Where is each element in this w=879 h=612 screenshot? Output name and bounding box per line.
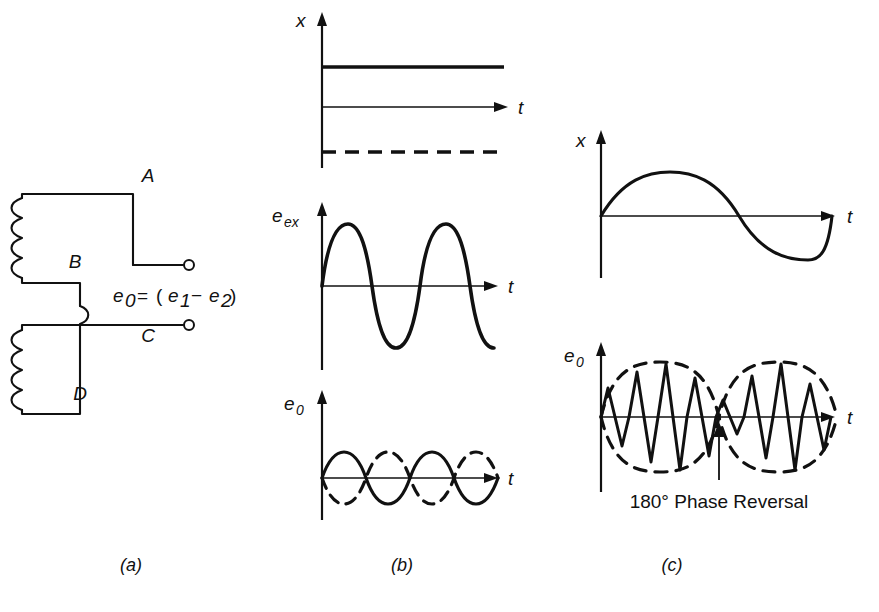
lower-coil-top-lead	[22, 325, 86, 330]
c2-x-axis-arrow	[821, 412, 835, 422]
upper-coil-icon	[12, 198, 23, 278]
chart-b-excitation	[317, 202, 498, 370]
b1-y-axis-arrow	[317, 12, 327, 26]
panel-label-b: (b)	[391, 555, 413, 575]
chart-b-output	[317, 390, 498, 520]
b1-axis-label-x: x	[295, 10, 307, 31]
figure-canvas: A B C D e 0 = ( e 1 − e 2 )	[0, 0, 879, 612]
panel-a-circuit	[12, 194, 195, 414]
wire-hop-icon	[80, 306, 88, 352]
lower-coil-bottom-lead	[22, 352, 80, 414]
b1-x-axis-arrow	[494, 102, 508, 112]
b2-y-axis-arrow	[317, 202, 327, 216]
b3-axis-label-e: e	[284, 393, 295, 414]
terminal-top	[184, 260, 194, 270]
b3-axis-label-t: t	[508, 468, 514, 489]
b2-axis-label-t: t	[508, 276, 514, 297]
b3-axis-label-e0: e 0	[284, 393, 304, 418]
formula-e-out: e	[113, 285, 124, 306]
formula-paren-close: )	[230, 285, 236, 306]
b2-axis-label-e-sub: ex	[284, 214, 300, 230]
c2-y-axis-arrow	[596, 342, 606, 356]
chart-c-displacement	[596, 130, 835, 278]
formula-minus: −	[191, 285, 202, 306]
b3-axis-label-e-sub: 0	[296, 402, 304, 418]
upper-coil-bottom-lead	[22, 278, 80, 306]
formula-e-out-sub: 0	[125, 290, 136, 311]
b1-axis-label-t: t	[518, 97, 524, 118]
figure-root: A B C D e 0 = ( e 1 − e 2 )	[0, 0, 879, 612]
c2-axis-label-t: t	[847, 407, 853, 428]
formula-equals: =	[137, 285, 148, 306]
terminal-bottom	[184, 320, 194, 330]
phase-reversal-annotation: 180° Phase Reversal	[630, 491, 809, 512]
c1-axis-label-t: t	[847, 206, 853, 227]
b2-axis-label-eex: e ex	[272, 205, 300, 230]
panel-label-a: (a)	[120, 555, 142, 575]
node-label-b: B	[69, 251, 82, 272]
formula-e-one: e	[168, 285, 179, 306]
panel-label-c: (c)	[662, 555, 683, 575]
node-label-a: A	[141, 165, 155, 186]
formula-e-two: e	[209, 285, 220, 306]
b2-x-axis-arrow	[484, 281, 498, 291]
formula-paren-open: (	[156, 285, 163, 306]
formula-e-one-sub: 1	[180, 290, 191, 311]
c2-axis-label-e: e	[564, 345, 575, 366]
chart-c-output	[596, 342, 837, 492]
chart-b-displacement	[317, 12, 508, 168]
node-label-c: C	[141, 325, 155, 346]
lower-coil-icon	[12, 330, 23, 410]
output-formula: e 0 = ( e 1 − e 2 )	[113, 285, 236, 311]
c2-axis-label-e0: e 0	[564, 345, 584, 370]
c2-axis-label-e-sub: 0	[576, 354, 584, 370]
c1-axis-label-x: x	[575, 130, 587, 151]
node-label-d: D	[73, 383, 87, 404]
c1-y-axis-arrow	[596, 130, 606, 144]
b3-y-axis-arrow	[317, 390, 327, 404]
b2-axis-label-e: e	[272, 205, 283, 226]
